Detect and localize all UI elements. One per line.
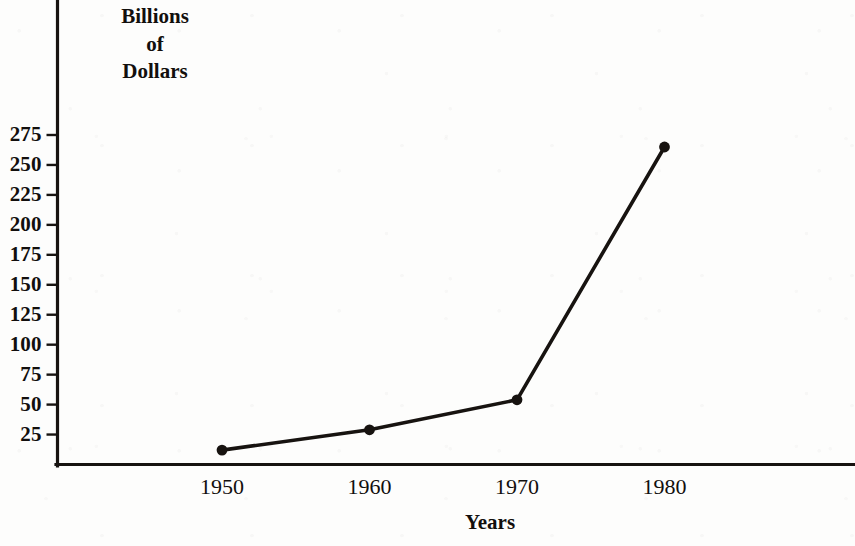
y-tick-label: 250 — [0, 154, 42, 175]
chart-figure: 275250225200175150125100755025 195019601… — [0, 0, 855, 546]
y-axis-title: BillionsofDollars — [95, 3, 215, 86]
data-point-marker — [512, 394, 523, 405]
y-tick-label: 75 — [0, 364, 42, 385]
y-axis-title-line: of — [95, 31, 215, 59]
y-tick-label: 150 — [0, 274, 42, 295]
x-axis-title: Years — [430, 512, 550, 533]
y-tick-label: 125 — [0, 304, 42, 325]
y-tick-label: 225 — [0, 184, 42, 205]
x-tick-label: 1950 — [162, 476, 282, 498]
y-tick-label: 175 — [0, 244, 42, 265]
data-point-marker — [659, 142, 670, 153]
y-axis-title-line: Billions — [95, 3, 215, 31]
data-markers — [217, 142, 670, 456]
data-point-marker — [364, 424, 375, 435]
x-tick-label: 1960 — [310, 476, 430, 498]
y-tick-label: 275 — [0, 124, 42, 145]
y-axis-title-line: Dollars — [95, 58, 215, 86]
y-tick-marks — [47, 135, 58, 435]
y-tick-label: 200 — [0, 214, 42, 235]
data-line — [222, 147, 665, 450]
x-tick-label: 1980 — [605, 476, 725, 498]
y-tick-label: 25 — [0, 424, 42, 445]
data-point-marker — [217, 445, 228, 456]
data-series-group — [217, 142, 670, 456]
y-tick-label: 50 — [0, 394, 42, 415]
y-tick-label: 100 — [0, 334, 42, 355]
x-tick-label: 1970 — [457, 476, 577, 498]
